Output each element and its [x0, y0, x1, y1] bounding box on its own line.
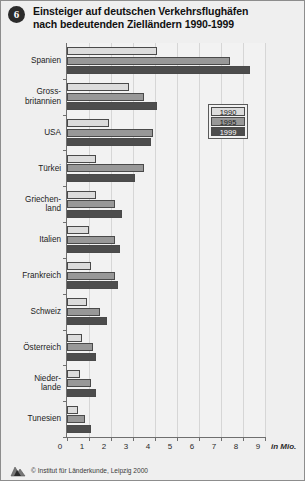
bar-1999: [67, 389, 96, 397]
bar-group: [67, 186, 265, 222]
chart-legend: 199019951999: [208, 104, 248, 139]
title-line-1: Einsteiger auf deutschen Verkehrsflughäf…: [33, 5, 248, 18]
bar-1999: [67, 138, 151, 146]
bar-1995: [67, 308, 100, 316]
category-label-line: Griechen-: [0, 195, 61, 205]
bar-1995: [67, 57, 230, 65]
category-label-line: Schweiz: [0, 307, 61, 317]
category-label-line: Österreich: [0, 343, 61, 353]
chart-figure: 6 Einsteiger auf deutschen Verkehrsflugh…: [0, 0, 305, 481]
x-axis-tick: [199, 437, 200, 441]
category-tick: [63, 365, 67, 366]
bar-group: [67, 150, 265, 186]
category-label: Tunesien: [0, 414, 61, 424]
institute-logo-icon: [10, 464, 26, 478]
bar-1999: [67, 245, 120, 253]
x-axis-tick-label: 2: [97, 442, 111, 451]
x-axis-tick-label: 6: [185, 442, 199, 451]
x-axis-tick-label: 8: [229, 442, 243, 451]
bar-1995: [67, 129, 153, 137]
x-axis-tick-label: 1: [75, 442, 89, 451]
bar-1990: [67, 47, 157, 55]
bar-1999: [67, 353, 96, 361]
chart-header: 6 Einsteiger auf deutschen Verkehrsflugh…: [1, 1, 305, 39]
bar-1995: [67, 343, 93, 351]
x-axis-tick-label: 3: [119, 442, 133, 451]
bar-1990: [67, 226, 89, 234]
category-tick: [63, 150, 67, 151]
bar-group: [67, 330, 265, 366]
x-axis-tick-label: 7: [207, 442, 221, 451]
category-label-line: Türkei: [0, 164, 61, 174]
bar-1990: [67, 262, 91, 270]
legend-item-1990: 1990: [211, 107, 245, 116]
bar-1990: [67, 406, 78, 414]
x-axis-tick-label: 9: [251, 442, 265, 451]
y-axis-line: [66, 43, 67, 437]
category-label: Türkei: [0, 164, 61, 174]
legend-item-1995: 1995: [211, 117, 245, 126]
bar-1995: [67, 379, 91, 387]
category-label-line: Italien: [0, 235, 61, 245]
bar-1999: [67, 281, 118, 289]
bar-group: [67, 43, 265, 79]
category-label-line: Tunesien: [0, 414, 61, 424]
category-label: Spanien: [0, 56, 61, 66]
x-axis-tick-label: 4: [141, 442, 155, 451]
bar-1995: [67, 200, 115, 208]
bar-1995: [67, 272, 115, 280]
category-label: Gross-britannien: [0, 87, 61, 106]
bar-1999: [67, 66, 250, 74]
category-tick: [63, 186, 67, 187]
x-axis-tick: [133, 437, 134, 441]
bar-group: [67, 294, 265, 330]
category-label: Frankreich: [0, 271, 61, 281]
category-label-line: Nieder-: [0, 374, 61, 384]
category-label: Griechen-land: [0, 195, 61, 214]
category-tick: [63, 294, 67, 295]
x-axis-tick-label: 5: [163, 442, 177, 451]
category-label-line: USA: [0, 128, 61, 138]
x-axis-tick: [177, 437, 178, 441]
bar-1999: [67, 174, 135, 182]
category-label: Italien: [0, 235, 61, 245]
category-tick: [63, 79, 67, 80]
bar-1990: [67, 119, 109, 127]
bar-group: [67, 258, 265, 294]
x-axis-tick: [111, 437, 112, 441]
category-label-line: lande: [0, 383, 61, 393]
bar-1990: [67, 191, 96, 199]
category-tick: [63, 258, 67, 259]
category-label: Nieder-lande: [0, 374, 61, 393]
category-tick: [63, 401, 67, 402]
chart-footer: © Institut für Länderkunde, Leipzig 2000: [1, 459, 305, 481]
bar-group: [67, 222, 265, 258]
bar-1999: [67, 102, 157, 110]
bar-1999: [67, 317, 107, 325]
category-label-line: land: [0, 204, 61, 214]
category-label-line: Gross-: [0, 87, 61, 97]
category-label: Österreich: [0, 343, 61, 353]
axis-unit-label: in Mio.: [271, 442, 296, 451]
gridline: [265, 43, 266, 437]
bar-1990: [67, 83, 129, 91]
copyright-text: © Institut für Länderkunde, Leipzig 2000: [31, 467, 148, 474]
bar-1999: [67, 210, 122, 218]
title-line-2: nach bedeutenden Zielländern 1990-1999: [33, 18, 248, 31]
category-label-line: Spanien: [0, 56, 61, 66]
bar-1990: [67, 334, 82, 342]
category-label: Schweiz: [0, 307, 61, 317]
category-label-line: britannien: [0, 97, 61, 107]
category-label-line: Frankreich: [0, 271, 61, 281]
bar-1999: [67, 425, 91, 433]
bar-1995: [67, 93, 144, 101]
x-axis-tick: [221, 437, 222, 441]
page-title: Einsteiger auf deutschen Verkehrsflughäf…: [33, 5, 248, 30]
bar-group: [67, 365, 265, 401]
x-axis-line: [67, 437, 266, 438]
x-axis-tick: [67, 437, 68, 441]
x-axis-tick: [243, 437, 244, 441]
bar-1990: [67, 155, 96, 163]
plot-area: [67, 43, 265, 437]
x-axis-tick: [155, 437, 156, 441]
